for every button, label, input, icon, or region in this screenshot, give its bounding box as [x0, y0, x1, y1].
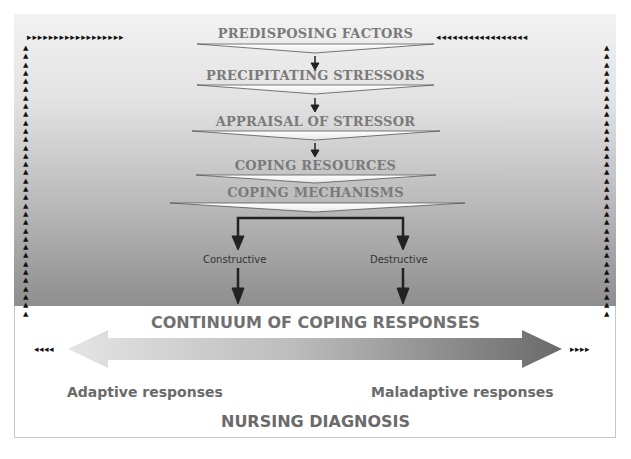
continuum-title: CONTINUUM OF COPING RESPONSES — [0, 313, 631, 332]
step-coping-resources: COPING RESOURCES — [150, 158, 481, 173]
feedback-arrow-bottom-left: ◂◂◂◂ — [34, 345, 54, 354]
continuum-arrow — [68, 330, 562, 368]
branch-destructive: Destructive — [370, 254, 428, 265]
feedback-arrow-right-column: ▲ ▲ ▲ ▲ ▲ ▲ ▲ ▲ ▲ ▲ ▲ ▲ ▲ ▲ ▲ ▲ ▲ ▲ ▲ ▲ … — [604, 44, 614, 318]
step-appraisal-of-stressor: APPRAISAL OF STRESSOR — [150, 114, 481, 129]
nursing-diagnosis: NURSING DIAGNOSIS — [0, 412, 631, 431]
step-predisposing-factors: PREDISPOSING FACTORS — [150, 26, 481, 41]
feedback-arrow-bottom-right: ▸▸▸▸ — [570, 345, 590, 354]
feedback-arrow-top-left: ▸▸▸▸▸▸▸▸▸▸▸▸▸▸▸▸▸▸ — [27, 33, 125, 42]
branch-constructive: Constructive — [203, 254, 266, 265]
step-coping-mechanisms: COPING MECHANISMS — [150, 185, 481, 200]
feedback-arrow-left-column: ▲ ▲ ▲ ▲ ▲ ▲ ▲ ▲ ▲ ▲ ▲ ▲ ▲ ▲ ▲ ▲ ▲ ▲ ▲ ▲ … — [23, 44, 33, 318]
step-precipitating-stressors: PRECIPITATING STRESSORS — [150, 68, 481, 83]
maladaptive-responses-label: Maladaptive responses — [371, 384, 554, 400]
adaptive-responses-label: Adaptive responses — [67, 384, 223, 400]
